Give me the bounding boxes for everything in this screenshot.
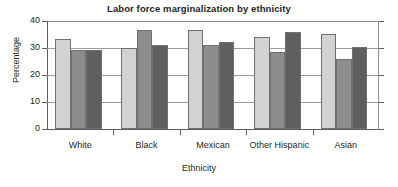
bar-other-hispanic-series-1 [254, 37, 270, 129]
x-axis-line [47, 129, 379, 130]
bar-black-series-2 [137, 30, 153, 129]
bar-asian-series-2 [336, 59, 352, 129]
y-tick-label-30: 30 [12, 42, 40, 52]
y-tick-label-10: 10 [12, 96, 40, 106]
y-tick-label-20: 20 [12, 69, 40, 79]
bar-white-series-1 [55, 39, 71, 129]
x-separator-3 [246, 130, 247, 135]
bar-black-series-1 [121, 48, 137, 129]
y-axis-title: Percentage [11, 18, 21, 102]
y-tick-right-20 [379, 75, 384, 76]
bar-mexican-series-1 [188, 30, 204, 129]
x-category-label-other-hispanic: Other Hispanic [246, 140, 312, 150]
bar-asian-series-3 [352, 47, 368, 129]
bar-other-hispanic-series-2 [270, 52, 286, 129]
x-category-label-black: Black [113, 140, 179, 150]
bar-series-layer [47, 21, 379, 129]
bar-white-series-3 [86, 50, 102, 129]
bar-other-hispanic-series-3 [285, 32, 301, 129]
x-category-label-asian: Asian [313, 140, 379, 150]
y-tick-right-30 [379, 48, 384, 49]
bar-mexican-series-3 [219, 42, 235, 129]
x-separator-4 [313, 130, 314, 135]
bar-mexican-series-2 [203, 45, 219, 129]
chart-title: Labor force marginalization by ethnicity [0, 3, 398, 14]
chart-figure: Labor force marginalization by ethnicity… [0, 0, 398, 187]
x-category-label-white: White [47, 140, 113, 150]
x-separator-2 [180, 130, 181, 135]
y-tick-label-0: 0 [12, 123, 40, 133]
y-tick-right-40 [379, 21, 384, 22]
bar-black-series-3 [152, 45, 168, 129]
bar-white-series-2 [71, 50, 87, 129]
bar-asian-series-1 [321, 34, 337, 129]
x-axis-title: Ethnicity [0, 163, 398, 173]
y-tick-0 [42, 129, 47, 130]
x-category-label-mexican: Mexican [180, 140, 246, 150]
y-tick-right-0 [379, 129, 384, 130]
x-separator-1 [113, 130, 114, 135]
y-tick-label-40: 40 [12, 15, 40, 25]
y-tick-right-10 [379, 102, 384, 103]
